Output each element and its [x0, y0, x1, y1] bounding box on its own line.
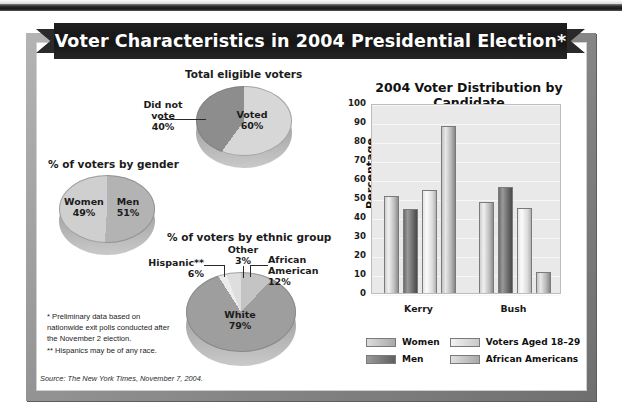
y-axis-tick: 90	[340, 117, 366, 127]
x-axis-tick-kerry: Kerry	[389, 303, 449, 314]
leader-tick-african-american	[250, 265, 251, 277]
bar-men-kerry	[403, 209, 418, 293]
slice-name-women: Women	[64, 196, 104, 207]
x-axis-tick-bush: Bush	[484, 303, 544, 314]
page-title: Voter Characteristics in 2004 Presidenti…	[55, 31, 567, 51]
bar-voters-aged-18-29-kerry	[422, 190, 437, 293]
bar-group-container	[372, 105, 560, 293]
slice-value-african-american: 12%	[268, 276, 291, 287]
slice-name-voted: Voted	[236, 109, 267, 120]
pie-slice-label-hispanic: Hispanic** 6%	[142, 258, 204, 280]
slice-name-white: White	[224, 309, 255, 320]
bar-men-bush	[498, 187, 513, 293]
bar-african-americans-bush	[536, 272, 551, 293]
slice-value-men: 51%	[117, 207, 140, 218]
leader-tick-hispanic	[224, 265, 225, 277]
legend-item-men: Men	[366, 354, 440, 364]
legend-swatch	[366, 338, 396, 347]
y-axis-tick: 100	[340, 98, 366, 108]
top-dark-rule	[0, 4, 622, 11]
slice-name-other: Other	[228, 244, 259, 255]
slice-value-other: 3%	[235, 255, 251, 266]
bar-voters-aged-18-29-bush	[517, 208, 532, 294]
pie-slice-label-men: Men 51%	[108, 197, 148, 219]
legend-label: African Americans	[486, 354, 579, 364]
pie-caption-ethnic-group: % of voters by ethnic group	[167, 231, 331, 243]
slice-value-did-not-vote: 40%	[152, 121, 175, 132]
footnote-preliminary-data: * Preliminary data based on nationwide e…	[47, 311, 177, 344]
y-axis-tick: 40	[340, 212, 366, 222]
legend-swatch	[450, 338, 480, 347]
y-axis-tick: 70	[340, 155, 366, 165]
slice-name-men: Men	[117, 196, 140, 207]
y-axis-tick: 50	[340, 193, 366, 203]
legend-label: Voters Aged 18–29	[486, 337, 581, 347]
pie-slice-label-white: White 79%	[214, 310, 266, 332]
pie-caption-eligible-voters: Total eligible voters	[185, 68, 302, 80]
legend-swatch	[450, 355, 480, 364]
leader-line-african-american	[250, 265, 268, 266]
leader-line-did-not-vote	[159, 119, 206, 120]
bar-women-bush	[479, 202, 494, 293]
legend-item-women: Women	[366, 337, 440, 347]
y-axis-tick: 80	[340, 136, 366, 146]
legend-swatch	[366, 355, 396, 364]
slice-value-white: 79%	[229, 320, 252, 331]
chart-legend: WomenVoters Aged 18–29MenAfrican America…	[366, 337, 571, 364]
slice-value-voted: 60%	[241, 120, 264, 131]
y-axis-tick: 60	[340, 174, 366, 184]
slice-value-hispanic: 6%	[188, 268, 204, 279]
leader-tick-other	[243, 266, 244, 278]
bar-african-americans-kerry	[441, 126, 456, 293]
footnote-hispanic-race: ** Hispanics may be of any race.	[47, 345, 197, 356]
legend-item-voters-aged-18-29: Voters Aged 18–29	[450, 337, 581, 347]
source-line: Source: The New York Times, November 7, …	[40, 374, 203, 383]
bar-women-kerry	[384, 196, 399, 293]
pie-slice-label-african-american: African American 12%	[268, 255, 328, 288]
y-axis-tick: 30	[340, 231, 366, 241]
legend-label: Women	[402, 337, 440, 347]
leader-line-hispanic	[204, 265, 224, 266]
title-banner: Voter Characteristics in 2004 Presidenti…	[36, 23, 585, 59]
y-axis-tick: 20	[340, 250, 366, 260]
slice-value-women: 49%	[73, 207, 96, 218]
bar-chart-plot-area	[371, 104, 561, 294]
pie-slice-label-did-not-vote: Did not vote 40%	[130, 100, 196, 133]
slice-name-african-american: African American	[268, 254, 318, 276]
legend-item-african-americans: African Americans	[450, 354, 581, 364]
pie-slice-label-women: Women 49%	[62, 197, 106, 219]
pie-slice-label-other: Other 3%	[222, 245, 264, 267]
slice-name-did-not-vote: Did not vote	[143, 99, 182, 121]
y-axis-tick: 0	[340, 288, 366, 298]
pie-slice-label-voted: Voted 60%	[229, 110, 275, 132]
y-axis-tick: 10	[340, 269, 366, 279]
pie-caption-gender: % of voters by gender	[48, 158, 179, 170]
legend-label: Men	[402, 354, 423, 364]
banner-body: Voter Characteristics in 2004 Presidenti…	[54, 23, 567, 59]
slice-name-hispanic: Hispanic**	[148, 257, 204, 268]
gridline	[372, 295, 560, 296]
